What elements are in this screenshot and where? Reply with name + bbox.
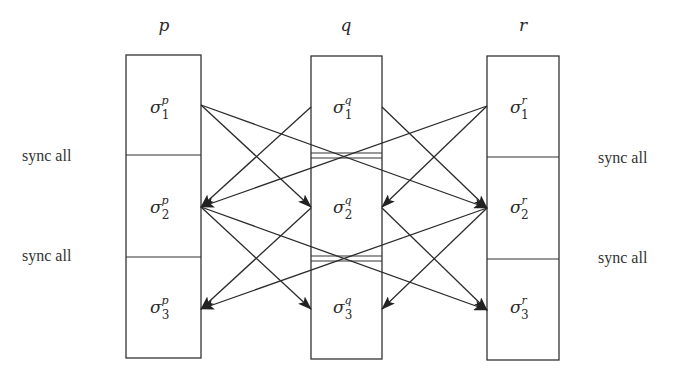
process-label-q: q xyxy=(341,15,352,35)
process-label-r: r xyxy=(519,15,528,35)
sync-label-left-1: sync all xyxy=(22,147,72,165)
arrow-r1-q2 xyxy=(382,106,487,207)
sync-label-right-2: sync all xyxy=(598,249,648,267)
sync-diagram: p q r σp1 σp2 σp3 σq1 σq2 σq3 σr1 σr2 σr… xyxy=(0,0,687,382)
arrow-q1-r2 xyxy=(382,107,487,208)
process-label-p: p xyxy=(159,15,170,35)
sync-label-right-1: sync all xyxy=(598,149,648,167)
sync-label-left-2: sync all xyxy=(22,247,72,265)
